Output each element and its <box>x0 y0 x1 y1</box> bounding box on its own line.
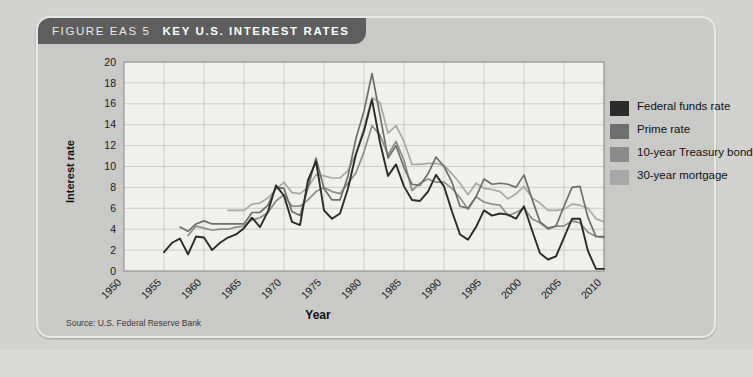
svg-text:1995: 1995 <box>458 276 483 301</box>
figure-title: KEY U.S. INTEREST RATES <box>162 25 349 37</box>
svg-text:2000: 2000 <box>498 276 523 301</box>
svg-text:4: 4 <box>110 223 116 235</box>
y-axis-title: Interest rate <box>64 140 76 203</box>
svg-text:1985: 1985 <box>378 276 403 301</box>
svg-text:1965: 1965 <box>218 276 243 301</box>
chart-area: 0246810121416182019501955196019651970197… <box>38 44 714 336</box>
svg-text:1970: 1970 <box>258 276 283 301</box>
source-note: Source: U.S. Federal Reserve Bank <box>66 318 201 328</box>
svg-text:1955: 1955 <box>138 276 163 301</box>
legend-label: 10-year Treasury bond <box>637 146 753 159</box>
svg-text:1980: 1980 <box>338 276 363 301</box>
svg-text:8: 8 <box>110 181 116 193</box>
legend-label: 30-year mortgage <box>637 169 728 182</box>
svg-text:1950: 1950 <box>98 276 123 301</box>
legend-swatch <box>610 147 629 162</box>
legend-item: Federal funds rate <box>610 100 753 116</box>
svg-text:12: 12 <box>104 139 116 151</box>
svg-text:1960: 1960 <box>178 276 203 301</box>
legend-swatch <box>610 124 629 139</box>
svg-text:6: 6 <box>110 202 116 214</box>
figure-header: FIGURE EAS 5 KEY U.S. INTEREST RATES <box>38 18 366 44</box>
svg-text:20: 20 <box>104 56 116 68</box>
figure-number-label: FIGURE EAS 5 <box>52 25 150 37</box>
legend-item: Prime rate <box>610 123 753 139</box>
svg-text:2: 2 <box>110 244 116 256</box>
svg-text:16: 16 <box>104 97 116 109</box>
svg-text:14: 14 <box>104 118 116 130</box>
legend-label: Prime rate <box>637 123 690 136</box>
legend-swatch <box>610 101 629 116</box>
chart-legend: Federal funds ratePrime rate10-year Trea… <box>610 100 753 192</box>
svg-text:2005: 2005 <box>538 276 563 301</box>
svg-text:1990: 1990 <box>418 276 443 301</box>
figure-panel: FIGURE EAS 5 KEY U.S. INTEREST RATES 024… <box>36 16 716 338</box>
svg-text:2010: 2010 <box>578 276 603 301</box>
svg-text:1975: 1975 <box>298 276 323 301</box>
svg-text:0: 0 <box>110 265 116 277</box>
svg-text:18: 18 <box>104 77 116 89</box>
legend-item: 10-year Treasury bond <box>610 146 753 162</box>
legend-label: Federal funds rate <box>637 100 730 113</box>
svg-text:10: 10 <box>104 160 116 172</box>
legend-swatch <box>610 170 629 185</box>
legend-item: 30-year mortgage <box>610 169 753 185</box>
